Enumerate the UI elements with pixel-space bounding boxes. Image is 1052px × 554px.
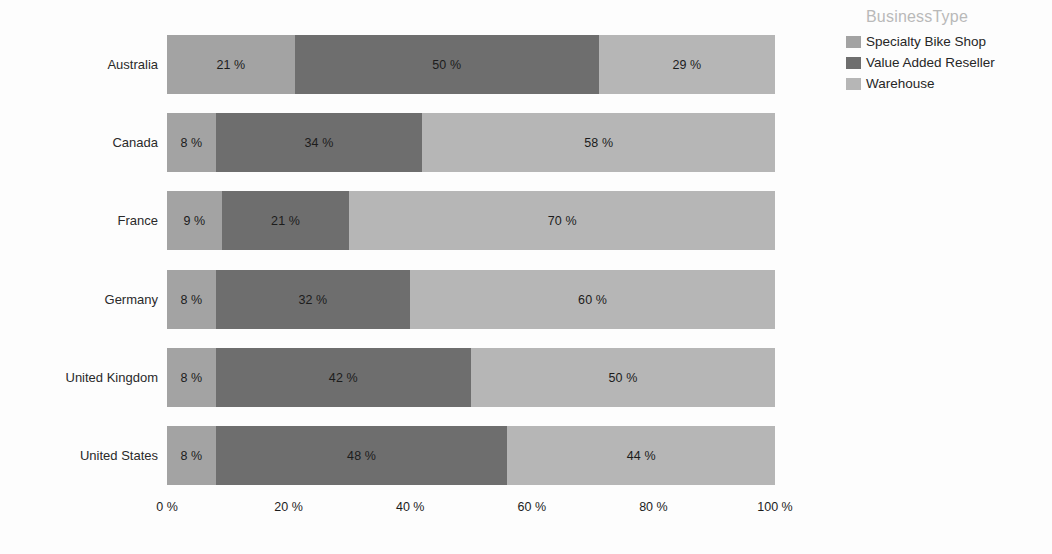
x-axis-tick-label: 20 %: [274, 500, 303, 514]
bar-segment[interactable]: 9 %: [167, 191, 222, 250]
x-axis-tick-label: 80 %: [639, 500, 668, 514]
bar-segment[interactable]: 70 %: [349, 191, 775, 250]
legend-swatch-icon: [846, 36, 861, 48]
bar-segment-label: 8 %: [180, 293, 202, 307]
bar-segment[interactable]: 8 %: [167, 270, 216, 329]
y-axis-category-label: Canada: [3, 135, 158, 150]
bar-segment[interactable]: 50 %: [295, 35, 599, 94]
bar-segment-label: 21 %: [271, 214, 300, 228]
y-axis-category-label: France: [3, 213, 158, 228]
bar-row[interactable]: 8 %34 %58 %: [167, 113, 775, 172]
x-axis-tick-label: 100 %: [757, 500, 792, 514]
bar-segment-label: 70 %: [548, 214, 577, 228]
legend-item-label: Value Added Reseller: [866, 55, 995, 70]
bar-segment[interactable]: 8 %: [167, 426, 216, 485]
stacked-bar-chart: AustraliaCanadaFranceGermanyUnited Kingd…: [0, 0, 1052, 554]
bar-segment[interactable]: 8 %: [167, 348, 216, 407]
bar-segment[interactable]: 42 %: [216, 348, 471, 407]
bar-segment-label: 58 %: [584, 136, 613, 150]
bar-row[interactable]: 8 %48 %44 %: [167, 426, 775, 485]
bar-segment-label: 29 %: [672, 58, 701, 72]
y-axis-category-label: Australia: [3, 57, 158, 72]
legend-item[interactable]: Specialty Bike Shop: [846, 32, 1046, 51]
bar-row[interactable]: 8 %32 %60 %: [167, 270, 775, 329]
bar-segment[interactable]: 48 %: [216, 426, 508, 485]
bar-segment[interactable]: 21 %: [222, 191, 350, 250]
x-axis-tick-label: 40 %: [396, 500, 425, 514]
bar-segment-label: 60 %: [578, 293, 607, 307]
bar-segment[interactable]: 32 %: [216, 270, 411, 329]
legend-swatch-icon: [846, 78, 861, 90]
bar-segment-label: 42 %: [329, 371, 358, 385]
bar-segment-label: 8 %: [180, 449, 202, 463]
y-axis-category-label: United Kingdom: [3, 370, 158, 385]
legend-item[interactable]: Value Added Reseller: [846, 53, 1046, 72]
x-axis-tick-label: 0 %: [156, 500, 178, 514]
legend-item-label: Specialty Bike Shop: [866, 34, 986, 49]
legend-items: Specialty Bike ShopValue Added ResellerW…: [846, 32, 1046, 93]
bar-segment-label: 50 %: [432, 58, 461, 72]
legend: BusinessType Specialty Bike ShopValue Ad…: [846, 8, 1046, 95]
y-axis-category-label: United States: [3, 448, 158, 463]
bar-segment-label: 8 %: [180, 371, 202, 385]
x-axis-tick-labels: 0 %20 %40 %60 %80 %100 %: [167, 500, 775, 526]
bar-segment-label: 21 %: [216, 58, 245, 72]
bar-segment[interactable]: 58 %: [422, 113, 775, 172]
bar-segment-label: 48 %: [347, 449, 376, 463]
bar-segment-label: 8 %: [180, 136, 202, 150]
bar-segment[interactable]: 21 %: [167, 35, 295, 94]
bar-row[interactable]: 8 %42 %50 %: [167, 348, 775, 407]
bar-segment[interactable]: 44 %: [507, 426, 775, 485]
bar-segment-label: 44 %: [627, 449, 656, 463]
plot-area: 21 %50 %29 %8 %34 %58 %9 %21 %70 %8 %32 …: [167, 25, 775, 495]
x-axis-tick-label: 60 %: [518, 500, 547, 514]
bar-segment-label: 34 %: [305, 136, 334, 150]
bar-segment-label: 9 %: [183, 214, 205, 228]
legend-title: BusinessType: [866, 8, 1046, 26]
bar-segment[interactable]: 60 %: [410, 270, 775, 329]
legend-swatch-icon: [846, 57, 861, 69]
legend-item[interactable]: Warehouse: [846, 74, 1046, 93]
bar-row[interactable]: 21 %50 %29 %: [167, 35, 775, 94]
bar-segment[interactable]: 29 %: [599, 35, 775, 94]
bar-segment[interactable]: 34 %: [216, 113, 423, 172]
bar-segment[interactable]: 8 %: [167, 113, 216, 172]
bar-segment-label: 32 %: [298, 293, 327, 307]
y-axis-category-labels: AustraliaCanadaFranceGermanyUnited Kingd…: [0, 25, 158, 495]
y-axis-category-label: Germany: [3, 292, 158, 307]
legend-item-label: Warehouse: [866, 76, 935, 91]
bar-row[interactable]: 9 %21 %70 %: [167, 191, 775, 250]
bar-segment[interactable]: 50 %: [471, 348, 775, 407]
bar-segment-label: 50 %: [609, 371, 638, 385]
